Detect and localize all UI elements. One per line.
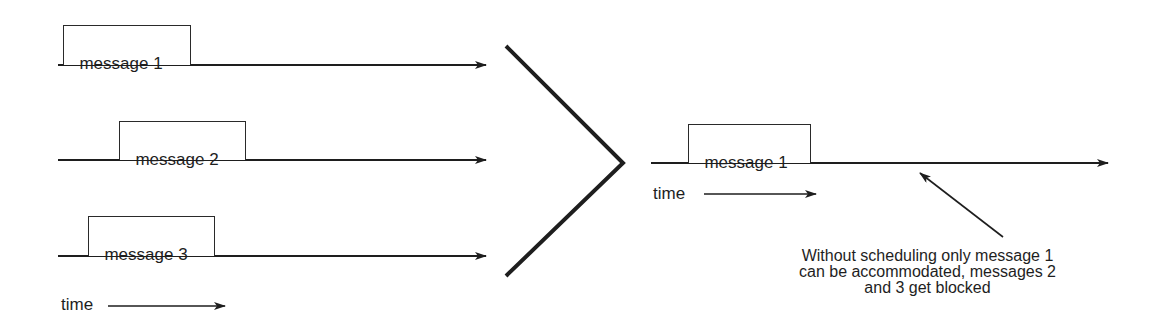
time-label-right: time [653,184,685,204]
merge-chevron [506,46,623,276]
message-1-box-right: message 1 [688,124,811,163]
message-2-label: message 2 [135,150,218,169]
annotation-text: Without scheduling only message 1 can be… [755,248,1100,296]
annotation-pointer-arrow [920,173,1003,237]
message-1-label-right: message 1 [704,153,787,172]
message-2-box: message 2 [119,121,246,160]
message-3-label: message 3 [104,245,187,264]
message-1-label: message 1 [79,54,162,73]
message-1-box: message 1 [63,25,191,65]
message-3-box: message 3 [88,216,215,256]
time-label-left: time [61,295,93,315]
